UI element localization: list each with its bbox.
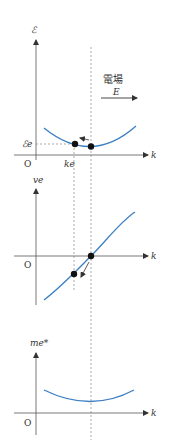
energy-graph: ℰ k O ℰe ke	[14, 25, 156, 169]
field-symbol: E	[112, 87, 120, 97]
energy-origin-label: O	[24, 159, 31, 169]
effective-mass-curve	[44, 390, 134, 402]
velocity-dot-initial	[88, 253, 94, 259]
energy-band-curve	[44, 126, 136, 147]
electron-dot-initial	[88, 143, 94, 149]
band-diagram: ℰ k O ℰe ke 電場 E ve k O me* k O	[0, 0, 169, 446]
ke-label: ke	[64, 159, 75, 169]
energy-motion-arrow	[80, 138, 89, 140]
energy-y-label: ℰ	[31, 25, 38, 35]
mass-y-label: me*	[30, 338, 49, 348]
velocity-dot-shifted	[71, 271, 77, 277]
mass-x-label: k	[151, 408, 156, 418]
mass-origin-label: O	[24, 418, 31, 428]
energy-level-label: ℰe	[22, 139, 32, 149]
energy-x-label: k	[151, 150, 156, 160]
velocity-origin-label: O	[24, 260, 31, 270]
field-label-jp: 電場	[103, 73, 123, 85]
electric-field-indicator: 電場 E	[101, 73, 137, 98]
velocity-graph: ve k O	[14, 175, 156, 305]
velocity-y-label: ve	[33, 175, 43, 185]
effective-mass-graph: me* k O	[14, 338, 156, 435]
velocity-x-label: k	[151, 251, 156, 261]
electron-dot-shifted	[72, 141, 78, 147]
